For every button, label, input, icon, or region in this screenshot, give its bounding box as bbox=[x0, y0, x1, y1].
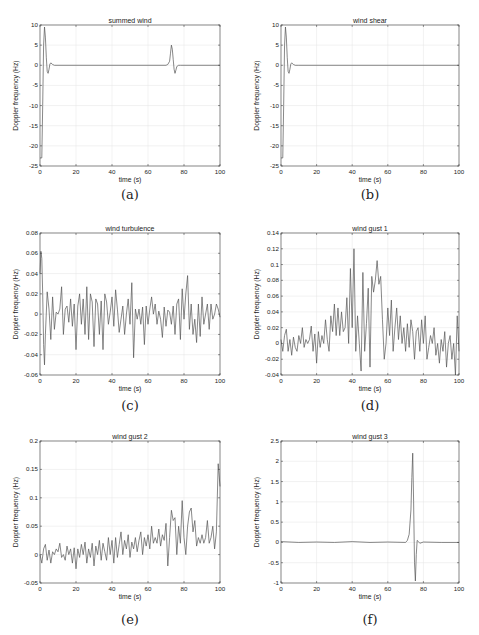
x-tick-label: 80 bbox=[181, 377, 188, 384]
x-tick-label: 0 bbox=[38, 168, 42, 175]
y-tick-label: 0 bbox=[276, 61, 280, 68]
y-tick-label: 0.12 bbox=[267, 245, 280, 252]
plot-area bbox=[40, 441, 220, 583]
x-tick-label: 20 bbox=[313, 585, 320, 592]
x-tick-label: 40 bbox=[109, 377, 116, 384]
x-axis-label: time (s) bbox=[359, 176, 382, 184]
x-tick-label: 60 bbox=[384, 168, 391, 175]
chart-title: wind gust 3 bbox=[351, 433, 388, 441]
y-tick-label: -0.02 bbox=[265, 355, 280, 362]
y-tick-label: 0.04 bbox=[267, 308, 280, 315]
x-tick-label: 0 bbox=[38, 377, 42, 384]
x-tick-label: 80 bbox=[420, 168, 427, 175]
y-tick-label: -1 bbox=[273, 579, 279, 586]
x-tick-label: 40 bbox=[109, 168, 116, 175]
caption-c: (c) bbox=[110, 398, 150, 413]
chart-title: wind gust 1 bbox=[351, 225, 388, 233]
y-axis-label: Doppler frequency (Hz) bbox=[12, 60, 20, 130]
x-tick-label: 60 bbox=[384, 377, 391, 384]
y-tick-label: 0.15 bbox=[26, 465, 39, 472]
x-tick-label: 20 bbox=[73, 377, 80, 384]
plot-svg: 0204060801002.521.510.50-0.5-1wind gust … bbox=[240, 420, 479, 635]
y-tick-label: 0.14 bbox=[267, 229, 280, 236]
plot-area bbox=[281, 25, 459, 166]
y-tick-label: 2.5 bbox=[270, 437, 279, 444]
y-tick-label: -10 bbox=[270, 102, 280, 109]
y-tick-label: 0.04 bbox=[26, 270, 39, 277]
x-tick-label: 100 bbox=[454, 377, 465, 384]
x-tick-label: 80 bbox=[181, 168, 188, 175]
chart-title: wind turbulence bbox=[104, 225, 154, 232]
x-tick-label: 60 bbox=[145, 168, 152, 175]
x-tick-label: 100 bbox=[454, 168, 465, 175]
plot-svg: 0204060801000.140.120.10.080.060.040.020… bbox=[240, 205, 479, 420]
y-tick-label: -0.06 bbox=[24, 371, 39, 378]
y-tick-label: -15 bbox=[270, 122, 280, 129]
x-tick-label: 60 bbox=[145, 377, 152, 384]
y-tick-label: -0.04 bbox=[265, 371, 280, 378]
y-tick-label: 0.05 bbox=[26, 522, 39, 529]
y-tick-label: -0.02 bbox=[24, 330, 39, 337]
y-tick-label: -25 bbox=[29, 162, 39, 169]
y-axis-label: Doppler frequency (Hz) bbox=[12, 269, 20, 339]
y-tick-label: 0.1 bbox=[29, 494, 38, 501]
caption-b: (b) bbox=[350, 187, 390, 202]
plot-svg: 0204060801000.080.060.040.020-0.02-0.04-… bbox=[0, 205, 240, 420]
chart-title: summed wind bbox=[108, 17, 151, 24]
x-axis-label: time (s) bbox=[359, 593, 382, 601]
y-tick-label: -0.05 bbox=[24, 579, 39, 586]
x-tick-label: 100 bbox=[215, 585, 226, 592]
y-tick-label: -10 bbox=[29, 102, 39, 109]
plot-svg: 0204060801001050-5-10-15-20-25summed win… bbox=[0, 0, 240, 205]
y-tick-label: 0.06 bbox=[26, 249, 39, 256]
chart-wind-turbulence: 0204060801000.080.060.040.020-0.02-0.04-… bbox=[0, 205, 240, 420]
chart-wind-gust-3: 0204060801002.521.510.50-0.5-1wind gust … bbox=[240, 420, 479, 635]
plot-svg: 0204060801000.20.150.10.050-0.05wind gus… bbox=[0, 420, 240, 635]
y-tick-label: 1.5 bbox=[270, 478, 279, 485]
caption-f: (f) bbox=[350, 612, 390, 627]
chart-wind-gust-1: 0204060801000.140.120.10.080.060.040.020… bbox=[240, 205, 479, 420]
x-tick-label: 60 bbox=[145, 585, 152, 592]
y-tick-label: 0 bbox=[276, 538, 280, 545]
x-axis-label: time (s) bbox=[359, 385, 382, 393]
y-axis-label: Doppler frequency (Hz) bbox=[253, 60, 261, 130]
y-tick-label: 0.02 bbox=[267, 324, 280, 331]
x-tick-label: 0 bbox=[279, 377, 283, 384]
chart-summed-wind: 0204060801001050-5-10-15-20-25summed win… bbox=[0, 0, 240, 205]
x-tick-label: 0 bbox=[279, 168, 283, 175]
x-tick-label: 20 bbox=[73, 168, 80, 175]
y-tick-label: 0.06 bbox=[267, 292, 280, 299]
x-tick-label: 40 bbox=[349, 585, 356, 592]
y-tick-label: -0.04 bbox=[24, 351, 39, 358]
y-tick-label: 0.5 bbox=[270, 518, 279, 525]
y-tick-label: -20 bbox=[29, 142, 39, 149]
chart-title: wind gust 2 bbox=[111, 433, 148, 441]
y-tick-label: 5 bbox=[35, 41, 39, 48]
y-tick-label: 10 bbox=[31, 21, 38, 28]
x-tick-label: 40 bbox=[349, 168, 356, 175]
y-tick-label: -25 bbox=[270, 162, 280, 169]
x-tick-label: 20 bbox=[313, 168, 320, 175]
y-tick-label: 1 bbox=[276, 498, 280, 505]
y-tick-label: 0 bbox=[276, 339, 280, 346]
y-tick-label: 0 bbox=[35, 61, 39, 68]
x-tick-label: 80 bbox=[181, 585, 188, 592]
y-axis-label: Doppler frequency (Hz) bbox=[253, 477, 261, 547]
y-tick-label: -0.5 bbox=[268, 559, 279, 566]
caption-d: (d) bbox=[350, 398, 390, 413]
y-tick-label: 0.02 bbox=[26, 290, 39, 297]
y-tick-label: 0 bbox=[35, 310, 39, 317]
plot-area bbox=[40, 233, 220, 375]
y-tick-label: -5 bbox=[32, 81, 38, 88]
plot-area bbox=[40, 25, 220, 166]
y-tick-label: 5 bbox=[276, 41, 280, 48]
chart-title: wind shear bbox=[352, 17, 388, 24]
y-tick-label: 0.2 bbox=[29, 437, 38, 444]
x-tick-label: 20 bbox=[313, 377, 320, 384]
plot-svg: 0204060801001050-5-10-15-20-25wind shear… bbox=[240, 0, 479, 205]
chart-wind-gust-2: 0204060801000.20.150.10.050-0.05wind gus… bbox=[0, 420, 240, 635]
y-tick-label: 0.1 bbox=[270, 261, 279, 268]
x-tick-label: 60 bbox=[384, 585, 391, 592]
y-axis-label: Doppler frequency (Hz) bbox=[12, 477, 20, 547]
y-tick-label: -5 bbox=[273, 81, 279, 88]
